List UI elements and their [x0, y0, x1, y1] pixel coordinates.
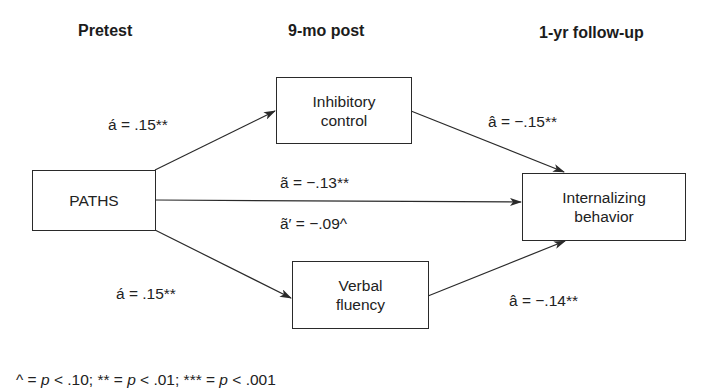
footnote-three-star-value: < .001 [228, 371, 276, 388]
node-internalizing-line2: behavior [574, 207, 633, 226]
footnote-two-star-value: < .01; [136, 371, 184, 388]
footnote-p: p [219, 371, 228, 388]
arrow-paths-to-inhibitory [155, 111, 275, 170]
footnote-two-star-symbol: ** = [97, 371, 127, 388]
node-internalizing-behavior: Internalizing behavior [522, 173, 686, 241]
node-internalizing-line1: Internalizing [562, 188, 646, 207]
arrow-paths-to-internalizing [155, 200, 521, 202]
footnote-three-star-symbol: *** = [184, 371, 220, 388]
arrow-verbal-to-internalizing [428, 241, 565, 296]
footnote-caret-value: < .10; [50, 371, 98, 388]
node-verbal-fluency: Verbal fluency [292, 261, 429, 329]
footnote-caret-symbol: ^ = [16, 371, 41, 388]
label-inhibitory-to-internalizing: â = −.15** [488, 113, 557, 131]
footnote-p: p [41, 371, 50, 388]
label-paths-to-verbal: á = .15** [116, 285, 176, 303]
label-direct-effect: ã′ = −.09^ [280, 215, 347, 233]
node-paths-label: PATHS [69, 191, 118, 210]
label-verbal-to-internalizing: â = −.14** [509, 292, 578, 310]
footnote-p: p [127, 371, 136, 388]
node-paths: PATHS [32, 170, 156, 231]
node-verbal-line1: Verbal [339, 276, 383, 295]
node-verbal-line2: fluency [336, 295, 385, 314]
node-inhibitory-line2: control [321, 111, 368, 130]
node-inhibitory-line1: Inhibitory [313, 92, 376, 111]
label-paths-to-inhibitory: á = .15** [108, 116, 168, 134]
node-inhibitory-control: Inhibitory control [276, 77, 412, 144]
significance-footnote: ^ = p < .10; ** = p < .01; *** = p < .00… [16, 371, 276, 389]
label-total-effect: ã = −.13** [280, 174, 349, 192]
